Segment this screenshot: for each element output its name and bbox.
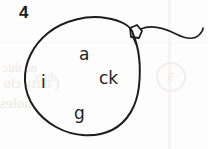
worksheet-page: ne thic ( dirty clo holes dirty 5 4 a i … xyxy=(0,0,208,149)
balloon-string xyxy=(141,27,203,39)
letter-fragment-bottom: g xyxy=(74,105,85,122)
letter-fragment-top: a xyxy=(79,46,89,63)
letter-fragment-right: ck xyxy=(99,70,118,87)
letter-fragment-left: i xyxy=(41,74,46,91)
